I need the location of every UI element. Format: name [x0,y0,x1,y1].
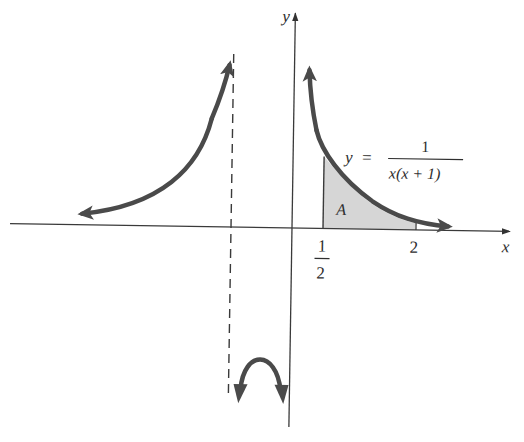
middle-branch-arrow-left [233,384,247,403]
equation-numerator: 1 [421,138,429,155]
x-axis-label: x [501,237,510,256]
tick-half-numerator: 1 [318,236,327,255]
equation-denominator: x(x + 1) [388,165,441,184]
right-branch-curve-upper [309,70,318,130]
middle-branch-arrow-right [274,385,288,404]
equation-fraction-bar [388,159,463,160]
left-branch-curve-upper [212,65,230,119]
rational-function-graph: y x A 1 2 2 y = 1 x(x + 1) [0,0,524,442]
y-axis [289,13,296,427]
tick-half-denominator: 2 [316,263,325,282]
left-branch-curve [82,117,212,216]
area-label: A [335,201,346,218]
tick-two-label: 2 [410,238,419,257]
equation-lhs: y [343,148,353,167]
y-axis-label: y [280,7,290,26]
equation-equals: = [362,148,372,167]
